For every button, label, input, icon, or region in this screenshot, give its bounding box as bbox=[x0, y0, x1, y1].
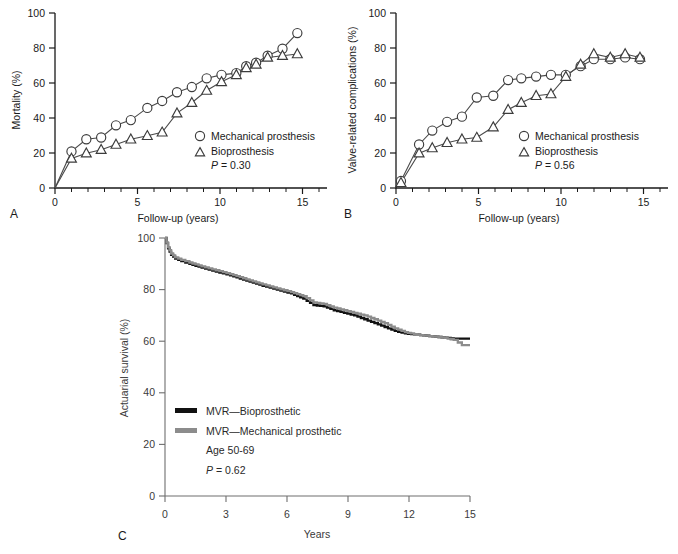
panel-b-letter: B bbox=[344, 207, 352, 221]
data-point-triangle bbox=[503, 104, 513, 113]
panel-a-p-symbol: P bbox=[211, 159, 218, 171]
panel-c-legend-label-1: MVR—Mechanical prosthetic bbox=[206, 425, 341, 437]
legend-triangle-icon bbox=[195, 148, 204, 156]
svg-text:0: 0 bbox=[52, 196, 58, 208]
panel-a-y-ticklabels: 0 20 40 60 80 100 bbox=[27, 7, 45, 194]
data-point-circle bbox=[443, 117, 452, 126]
panel-a-ylabel: Mortality (%) bbox=[10, 71, 22, 130]
data-point-triangle bbox=[292, 49, 302, 58]
svg-text:15: 15 bbox=[297, 196, 309, 208]
svg-text:40: 40 bbox=[33, 112, 45, 124]
data-point-circle bbox=[82, 135, 91, 144]
panel-a-mortality: 0 20 40 60 80 100 bbox=[0, 0, 336, 228]
panel-c-ylabel: Actuarial survival (%) bbox=[118, 319, 130, 418]
data-point-circle bbox=[143, 103, 152, 112]
data-point-triangle bbox=[589, 49, 599, 58]
panel-a-x-ticks bbox=[55, 188, 319, 194]
data-point-circle bbox=[158, 96, 167, 105]
svg-text:10: 10 bbox=[214, 196, 226, 208]
panel-c-svg: 0 20 40 60 80 100 0 3 6 9 12 1 bbox=[100, 228, 580, 554]
panel-a-xlabel: Follow-up (years) bbox=[137, 212, 218, 224]
panel-c-x-ticks bbox=[165, 496, 470, 502]
data-point-triangle bbox=[516, 98, 526, 107]
data-point-triangle bbox=[187, 98, 197, 107]
data-point-circle bbox=[457, 112, 466, 121]
data-point-circle bbox=[472, 93, 481, 102]
svg-text:5: 5 bbox=[476, 196, 482, 208]
svg-text:0: 0 bbox=[393, 196, 399, 208]
data-point-triangle bbox=[472, 132, 482, 141]
svg-text:60: 60 bbox=[143, 335, 155, 347]
data-point-circle bbox=[111, 121, 120, 130]
svg-text:9: 9 bbox=[345, 508, 351, 520]
legend-black-line-icon bbox=[175, 408, 197, 413]
panel-a-x-ticklabels: 0 5 10 15 bbox=[52, 196, 308, 208]
svg-text:15: 15 bbox=[464, 508, 476, 520]
svg-text:80: 80 bbox=[374, 42, 386, 54]
svg-text:80: 80 bbox=[33, 42, 45, 54]
svg-text:20: 20 bbox=[143, 438, 155, 450]
km-curve-mvr-bioprosthetic bbox=[165, 238, 470, 339]
panel-c-pvalue: P= 0.62 bbox=[206, 464, 246, 476]
panel-a-p-number: = 0.30 bbox=[221, 159, 251, 171]
panel-a-series-group bbox=[55, 28, 302, 188]
panel-b-p-symbol: P bbox=[535, 159, 542, 171]
svg-text:80: 80 bbox=[143, 283, 155, 295]
svg-text:15: 15 bbox=[638, 196, 650, 208]
panel-c-p-number: = 0.62 bbox=[216, 464, 246, 476]
panel-b-p-number: = 0.56 bbox=[545, 159, 575, 171]
panel-b-series-group bbox=[396, 49, 645, 187]
panel-a-pvalue: P= 0.30 bbox=[211, 159, 251, 171]
svg-text:60: 60 bbox=[33, 77, 45, 89]
svg-text:12: 12 bbox=[403, 508, 415, 520]
panel-a-svg: 0 20 40 60 80 100 bbox=[0, 0, 336, 228]
svg-text:0: 0 bbox=[162, 508, 168, 520]
data-point-circle bbox=[546, 70, 555, 79]
panel-b-x-ticklabels: 0 5 10 15 bbox=[393, 196, 649, 208]
panel-b-pvalue: P= 0.56 bbox=[535, 159, 575, 171]
data-point-circle bbox=[126, 116, 135, 125]
legend-circle-icon bbox=[519, 131, 528, 140]
panel-c-series-group bbox=[165, 238, 470, 345]
data-point-circle bbox=[172, 88, 181, 97]
svg-text:0: 0 bbox=[39, 182, 45, 194]
panel-c-age-note: Age 50-69 bbox=[206, 444, 255, 456]
panel-c-p-symbol: P bbox=[206, 464, 213, 476]
svg-text:3: 3 bbox=[223, 508, 229, 520]
panel-b-y-ticks bbox=[390, 13, 396, 188]
data-point-circle bbox=[504, 75, 513, 84]
panel-b-x-ticks bbox=[396, 188, 660, 194]
svg-text:0: 0 bbox=[149, 490, 155, 502]
legend-gray-line-icon bbox=[175, 428, 197, 433]
km-curve-mvr-mechanical-prosthetic bbox=[165, 238, 470, 345]
svg-text:100: 100 bbox=[368, 7, 386, 19]
panel-c-x-ticklabels: 0 3 6 9 12 15 bbox=[162, 508, 476, 520]
svg-text:40: 40 bbox=[374, 112, 386, 124]
data-point-circle bbox=[532, 72, 541, 81]
panel-c-y-ticklabels: 0 20 40 60 80 100 bbox=[137, 232, 155, 502]
panel-b-axes: 0 20 40 60 80 100 bbox=[368, 7, 668, 209]
panel-a-legend: Mechanical prosthesis Bioprosthesis P= 0… bbox=[195, 130, 314, 171]
data-point-circle bbox=[202, 74, 211, 83]
data-point-triangle bbox=[172, 108, 182, 117]
panel-c-legend: MVR—Bioprosthetic MVR—Mechanical prosthe… bbox=[175, 405, 341, 477]
data-point-triangle bbox=[620, 49, 630, 58]
svg-text:5: 5 bbox=[135, 196, 141, 208]
panel-a-legend-label-1: Bioprosthesis bbox=[211, 145, 274, 157]
panel-b-y-ticklabels: 0 20 40 60 80 100 bbox=[368, 7, 386, 194]
data-point-circle bbox=[489, 91, 498, 100]
legend-triangle-icon bbox=[519, 148, 528, 156]
panel-a-legend-label-0: Mechanical prosthesis bbox=[211, 130, 315, 142]
panel-c-legend-label-0: MVR—Bioprosthetic bbox=[206, 405, 301, 417]
panel-c-xlabel: Years bbox=[304, 528, 330, 540]
panel-b-axis-lines bbox=[396, 13, 668, 188]
panel-b-legend-label-1: Bioprosthesis bbox=[535, 145, 598, 157]
svg-text:40: 40 bbox=[143, 386, 155, 398]
data-point-triangle bbox=[202, 85, 212, 94]
panel-b-svg: 0 20 40 60 80 100 bbox=[336, 0, 678, 228]
svg-text:100: 100 bbox=[137, 232, 155, 244]
svg-text:6: 6 bbox=[284, 508, 290, 520]
svg-text:10: 10 bbox=[555, 196, 567, 208]
panel-b-legend: Mechanical prosthesis Bioprosthesis P= 0… bbox=[519, 130, 638, 171]
data-point-circle bbox=[187, 82, 196, 91]
